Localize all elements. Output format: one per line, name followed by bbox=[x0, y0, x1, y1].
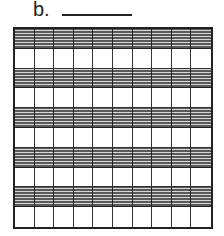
grid-cell-empty bbox=[74, 88, 94, 108]
grid-cell-empty bbox=[35, 49, 55, 69]
grid-cell-shaded bbox=[54, 148, 74, 168]
grid-cell-empty bbox=[93, 207, 113, 227]
hundred-grid bbox=[13, 27, 213, 229]
grid-cell-shaded bbox=[133, 29, 153, 49]
grid-cell-empty bbox=[152, 207, 172, 227]
grid-cell-empty bbox=[35, 128, 55, 148]
grid-cell-empty bbox=[113, 88, 133, 108]
grid-cell-shaded bbox=[113, 148, 133, 168]
grid-cell-shaded bbox=[74, 148, 94, 168]
grid-cell-shaded bbox=[191, 148, 211, 168]
grid-cell-shaded bbox=[54, 108, 74, 128]
grid-cell-empty bbox=[133, 49, 153, 69]
grid-cell-empty bbox=[74, 168, 94, 188]
grid-cell-empty bbox=[15, 88, 35, 108]
grid-cell-empty bbox=[113, 128, 133, 148]
grid-cell-shaded bbox=[113, 69, 133, 89]
grid-cell-shaded bbox=[93, 148, 113, 168]
grid-cell-empty bbox=[191, 88, 211, 108]
grid-cell-empty bbox=[152, 88, 172, 108]
grid-cell-empty bbox=[172, 128, 192, 148]
grid-cell-empty bbox=[172, 168, 192, 188]
grid-cell-shaded bbox=[15, 187, 35, 207]
grid-cell-empty bbox=[191, 128, 211, 148]
grid-cell-empty bbox=[35, 168, 55, 188]
grid-cell-shaded bbox=[15, 148, 35, 168]
grid-cell-empty bbox=[191, 49, 211, 69]
grid-cell-empty bbox=[35, 207, 55, 227]
grid-cell-shaded bbox=[172, 108, 192, 128]
grid-cell-shaded bbox=[172, 187, 192, 207]
grid-cell-shaded bbox=[133, 69, 153, 89]
grid-cell-empty bbox=[54, 49, 74, 69]
grid-cell-shaded bbox=[15, 29, 35, 49]
grid-cell-empty bbox=[54, 207, 74, 227]
grid-cell-shaded bbox=[15, 108, 35, 128]
grid-cell-empty bbox=[54, 88, 74, 108]
grid-cell-shaded bbox=[54, 29, 74, 49]
grid-cell-empty bbox=[93, 128, 113, 148]
grid-cell-shaded bbox=[74, 69, 94, 89]
grid-cell-empty bbox=[133, 88, 153, 108]
grid-cell-empty bbox=[172, 207, 192, 227]
grid-cell-empty bbox=[15, 49, 35, 69]
grid-cell-empty bbox=[113, 207, 133, 227]
grid-cell-shaded bbox=[133, 148, 153, 168]
grid-cell-shaded bbox=[35, 108, 55, 128]
grid-cell-empty bbox=[172, 88, 192, 108]
grid-cell-shaded bbox=[74, 108, 94, 128]
grid-cell-empty bbox=[74, 128, 94, 148]
grid-cell-empty bbox=[74, 207, 94, 227]
grid-cell-empty bbox=[15, 207, 35, 227]
grid-cell-empty bbox=[74, 49, 94, 69]
answer-blank-line bbox=[62, 14, 132, 16]
grid-cell-shaded bbox=[35, 69, 55, 89]
grid-cell-empty bbox=[54, 168, 74, 188]
grid-cell-shaded bbox=[35, 29, 55, 49]
grid-cell-empty bbox=[152, 128, 172, 148]
grid-cell-shaded bbox=[54, 69, 74, 89]
grid-cell-shaded bbox=[74, 29, 94, 49]
grid-cell-shaded bbox=[74, 187, 94, 207]
grid-cell-empty bbox=[113, 168, 133, 188]
grid-cell-shaded bbox=[172, 29, 192, 49]
grid-cell-empty bbox=[93, 49, 113, 69]
grid-cell-shaded bbox=[93, 108, 113, 128]
grid-cell-empty bbox=[152, 168, 172, 188]
grid-cell-empty bbox=[35, 88, 55, 108]
grid-cell-shaded bbox=[172, 69, 192, 89]
grid-cell-shaded bbox=[35, 148, 55, 168]
grid-cell-shaded bbox=[54, 187, 74, 207]
grid-cell-empty bbox=[152, 49, 172, 69]
grid-cell-empty bbox=[15, 168, 35, 188]
grid-cell-shaded bbox=[15, 69, 35, 89]
grid-cell-empty bbox=[93, 168, 113, 188]
grid-cell-empty bbox=[15, 128, 35, 148]
grid-cell-shaded bbox=[93, 187, 113, 207]
grid-cell-empty bbox=[191, 168, 211, 188]
grid-cell-shaded bbox=[133, 187, 153, 207]
grid-cell-empty bbox=[93, 88, 113, 108]
grid-cell-empty bbox=[172, 49, 192, 69]
grid-cell-shaded bbox=[152, 108, 172, 128]
grid-cell-empty bbox=[133, 207, 153, 227]
grid-cell-empty bbox=[191, 207, 211, 227]
grid-cell-shaded bbox=[113, 108, 133, 128]
grid-cell-shaded bbox=[93, 69, 113, 89]
grid-cell-shaded bbox=[152, 29, 172, 49]
grid-cell-empty bbox=[54, 128, 74, 148]
grid-cell-shaded bbox=[152, 69, 172, 89]
grid-cell-shaded bbox=[191, 29, 211, 49]
grid-cell-shaded bbox=[35, 187, 55, 207]
grid-cell-shaded bbox=[113, 187, 133, 207]
grid-cell-shaded bbox=[133, 108, 153, 128]
problem-label: b. bbox=[33, 0, 50, 21]
grid-cell-empty bbox=[133, 128, 153, 148]
grid-cell-shaded bbox=[191, 69, 211, 89]
grid-cell-shaded bbox=[152, 187, 172, 207]
grid-cell-shaded bbox=[152, 148, 172, 168]
grid-cell-shaded bbox=[93, 29, 113, 49]
grid-cell-shaded bbox=[191, 187, 211, 207]
grid-cell-shaded bbox=[113, 29, 133, 49]
grid-cell-empty bbox=[113, 49, 133, 69]
